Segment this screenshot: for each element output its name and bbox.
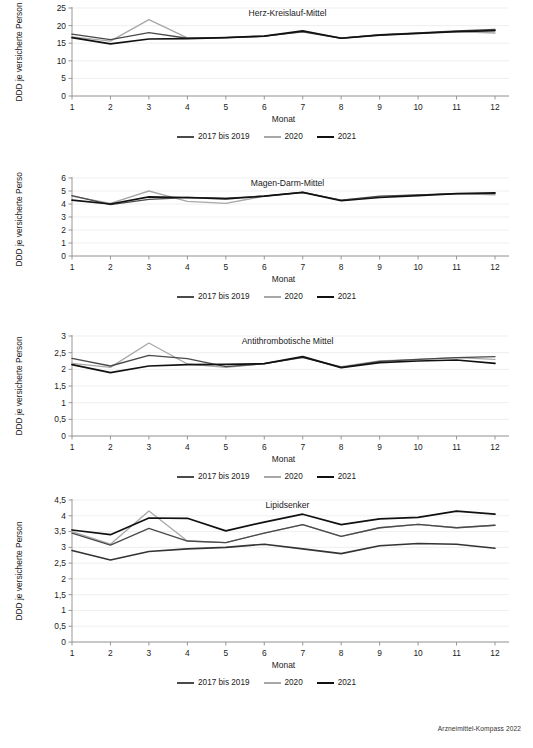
- x-axis-tick-label: 9: [377, 102, 382, 112]
- y-axis-tick-label: 1: [61, 238, 66, 248]
- x-axis-tick-label: 3: [147, 262, 152, 272]
- legend-line-icon: [264, 136, 281, 138]
- x-axis-tick-label: 6: [262, 442, 267, 452]
- legend-item[interactable]: 2020: [264, 292, 303, 301]
- y-axis-tick-label: 1,5: [54, 590, 66, 600]
- series-line: [72, 343, 495, 367]
- legend-item[interactable]: 2020: [264, 132, 303, 141]
- legend-label: 2017 bis 2019: [198, 132, 249, 141]
- legend-item[interactable]: 2021: [317, 472, 356, 481]
- x-axis-tick-label: 10: [413, 102, 423, 112]
- y-axis-tick-label: 0: [61, 91, 66, 101]
- x-axis-tick-label: 5: [223, 442, 228, 452]
- legend-item[interactable]: 2021: [317, 292, 356, 301]
- legend-item[interactable]: 2021: [317, 132, 356, 141]
- legend-item[interactable]: 2020: [264, 472, 303, 481]
- x-axis-tick-label: 3: [147, 442, 152, 452]
- x-axis-tick-label: 1: [70, 102, 75, 112]
- legend-item[interactable]: 2020: [264, 678, 303, 687]
- x-axis-tick-label: 3: [147, 102, 152, 112]
- y-axis-title: DDD je versicherte Person: [14, 336, 24, 435]
- x-axis-tick-label: 2: [108, 442, 113, 452]
- x-axis-tick-label: 8: [339, 442, 344, 452]
- y-axis-tick-label: 2: [61, 364, 66, 374]
- chart-legend: 2017 bis 201920202021: [0, 678, 533, 687]
- legend-label: 2020: [285, 678, 303, 687]
- legend-item[interactable]: 2017 bis 2019: [177, 132, 249, 141]
- y-axis-tick-label: 3: [61, 542, 66, 552]
- x-axis-tick-label: 2: [108, 262, 113, 272]
- chart-title: Antithrombotische Mittel: [242, 336, 334, 346]
- chart-panel: 0510152025123456789101112MonatDDD je ver…: [0, 2, 533, 141]
- x-axis-tick-label: 9: [377, 648, 382, 658]
- legend-line-icon: [317, 136, 334, 138]
- y-axis-tick-label: 4,5: [54, 495, 66, 505]
- chart-panel: 0123456123456789101112MonatDDD je versic…: [0, 172, 533, 301]
- y-axis-tick-label: 1,5: [54, 381, 66, 391]
- x-axis-tick-label: 12: [490, 262, 500, 272]
- x-axis-tick-label: 5: [223, 648, 228, 658]
- x-axis-tick-label: 8: [339, 648, 344, 658]
- y-axis-tick-label: 0: [61, 637, 66, 647]
- legend-label: 2021: [338, 472, 356, 481]
- chart-legend: 2017 bis 201920202021: [0, 132, 533, 141]
- x-axis-tick-label: 5: [223, 262, 228, 272]
- y-axis-tick-label: 2: [61, 574, 66, 584]
- legend-line-icon: [317, 296, 334, 298]
- x-axis-tick-label: 7: [300, 262, 305, 272]
- y-axis-tick-label: 3: [61, 331, 66, 341]
- x-axis-tick-label: 2: [108, 102, 113, 112]
- y-axis-tick-label: 2,5: [54, 348, 66, 358]
- y-axis-tick-label: 5: [61, 186, 66, 196]
- legend-item[interactable]: 2021: [317, 678, 356, 687]
- legend-label: 2021: [338, 132, 356, 141]
- legend-line-icon: [264, 682, 281, 684]
- x-axis-tick-label: 6: [262, 102, 267, 112]
- y-axis-tick-label: 10: [57, 56, 67, 66]
- y-axis-tick-label: 25: [57, 3, 67, 13]
- y-axis-tick-label: 0: [61, 431, 66, 441]
- source-attribution: Arzneimittel-Kompass 2022: [438, 725, 521, 732]
- legend-item[interactable]: 2017 bis 2019: [177, 472, 249, 481]
- chart-title: Herz-Kreislauf-Mittel: [249, 8, 327, 18]
- series-line: [72, 31, 495, 44]
- legend-line-icon: [177, 136, 194, 138]
- x-axis-tick-label: 6: [262, 648, 267, 658]
- x-axis-title: Monat: [272, 454, 296, 464]
- y-axis-title: DDD je versicherte Person: [14, 172, 24, 267]
- x-axis-tick-label: 12: [490, 102, 500, 112]
- series-line: [72, 524, 495, 545]
- y-axis-tick-label: 6: [61, 173, 66, 183]
- chart-panel: 00,511,522,53123456789101112MonatDDD je …: [0, 330, 533, 481]
- legend-item[interactable]: 2017 bis 2019: [177, 292, 249, 301]
- x-axis-tick-label: 4: [185, 648, 190, 658]
- x-axis-tick-label: 7: [300, 442, 305, 452]
- legend-line-icon: [317, 476, 334, 478]
- y-axis-tick-label: 15: [57, 38, 67, 48]
- y-axis-tick-label: 1: [61, 605, 66, 615]
- x-axis-title: Monat: [272, 114, 296, 124]
- chart-legend: 2017 bis 201920202021: [0, 472, 533, 481]
- x-axis-tick-label: 11: [452, 102, 461, 112]
- x-axis-tick-label: 9: [377, 262, 382, 272]
- x-axis-tick-label: 6: [262, 262, 267, 272]
- legend-label: 2020: [285, 292, 303, 301]
- y-axis-tick-label: 4: [61, 199, 66, 209]
- legend-label: 2017 bis 2019: [198, 472, 249, 481]
- chart-panel: 00,511,522,533,544,5123456789101112Monat…: [0, 494, 533, 687]
- legend-label: 2021: [338, 292, 356, 301]
- y-axis-tick-label: 5: [61, 73, 66, 83]
- y-axis-tick-label: 0: [61, 251, 66, 261]
- x-axis-tick-label: 12: [490, 442, 500, 452]
- legend-line-icon: [317, 682, 334, 684]
- legend-item[interactable]: 2017 bis 2019: [177, 678, 249, 687]
- x-axis-tick-label: 3: [147, 648, 152, 658]
- x-axis-title: Monat: [272, 274, 296, 284]
- x-axis-tick-label: 1: [70, 442, 75, 452]
- y-axis-tick-label: 20: [57, 21, 67, 31]
- x-axis-tick-label: 4: [185, 262, 190, 272]
- series-line: [72, 192, 495, 204]
- x-axis-tick-label: 4: [185, 102, 190, 112]
- x-axis-title: Monat: [272, 660, 296, 670]
- chart-legend: 2017 bis 201920202021: [0, 292, 533, 301]
